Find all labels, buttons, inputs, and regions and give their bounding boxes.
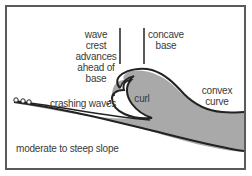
wave-crest-label: wave crest advances ahead of base xyxy=(74,29,118,84)
crashing-waves-label: crashing waves xyxy=(50,98,116,109)
foam-bubble xyxy=(27,100,31,104)
slope-label: moderate to steep slope xyxy=(16,143,119,154)
foam-bubble xyxy=(14,98,18,102)
foam-bubble xyxy=(21,99,25,103)
convex-curve-label: convex curve xyxy=(200,85,234,107)
concave-base-label: concave base xyxy=(148,29,184,51)
curl-label: curl xyxy=(130,93,154,104)
spray-dot xyxy=(113,94,115,96)
